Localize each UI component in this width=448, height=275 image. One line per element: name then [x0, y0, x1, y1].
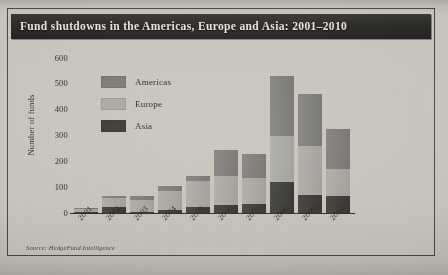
bar-segment-2008-europe	[270, 136, 294, 183]
plot-area	[72, 50, 352, 213]
bar-2010	[326, 129, 350, 213]
bar-segment-2006-americas	[214, 150, 238, 176]
y-axis-tick-600: 600	[34, 53, 68, 63]
source-note: Source: HedgeFund Intelligence	[26, 244, 115, 251]
y-axis-tick-0: 0	[34, 208, 68, 218]
bar-segment-2009-europe	[298, 146, 322, 195]
bar-2009	[298, 94, 322, 213]
y-axis-tick-200: 200	[34, 156, 68, 166]
bar-segment-2005-europe	[186, 181, 210, 207]
chart-title: Fund shutdowns in the Americas, Europe a…	[20, 18, 424, 35]
y-axis-label: Number of funds	[26, 70, 36, 180]
y-axis-tick-500: 500	[34, 78, 68, 88]
bar-2008	[270, 76, 294, 213]
y-axis-tick-400: 400	[34, 104, 68, 114]
bar-segment-2009-americas	[298, 94, 322, 146]
bar-segment-2010-americas	[326, 129, 350, 169]
bar-segment-2007-europe	[242, 178, 266, 204]
bar-segment-2010-europe	[326, 169, 350, 196]
y-axis-tick-300: 300	[34, 130, 68, 140]
scanned-page: Fund shutdowns in the Americas, Europe a…	[0, 0, 448, 275]
bar-2006	[214, 150, 238, 213]
bar-segment-2007-americas	[242, 154, 266, 179]
bar-segment-2006-europe	[214, 176, 238, 206]
bar-segment-2008-americas	[270, 76, 294, 135]
y-axis-tick-100: 100	[34, 182, 68, 192]
